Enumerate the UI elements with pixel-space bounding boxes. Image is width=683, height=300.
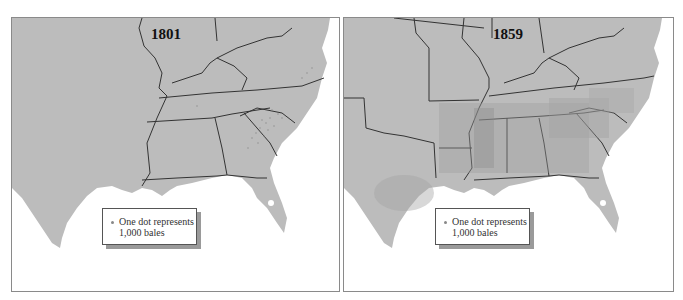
legend-line-2: 1,000 bales bbox=[444, 227, 529, 238]
dot-symbol-icon bbox=[444, 221, 447, 224]
map-year-label: 1859 bbox=[493, 26, 523, 43]
legend-line-1: One dot represents bbox=[119, 216, 194, 227]
map-legend: One dot represents 1,000 bales bbox=[102, 208, 197, 245]
map-panel-1859: 1859 One dot represents 1,000 bales bbox=[343, 17, 674, 292]
map-legend: One dot represents 1,000 bales bbox=[435, 208, 530, 245]
map-year-label: 1801 bbox=[151, 26, 181, 43]
legend-line-1: One dot represents bbox=[452, 216, 527, 227]
legend-line-2: 1,000 bales bbox=[111, 227, 196, 238]
map-panel-1801: 1801 One dot represents 1,000 bales bbox=[11, 17, 340, 292]
map-1801 bbox=[12, 18, 339, 291]
dot-symbol-icon bbox=[111, 221, 114, 224]
map-1859 bbox=[344, 18, 673, 291]
